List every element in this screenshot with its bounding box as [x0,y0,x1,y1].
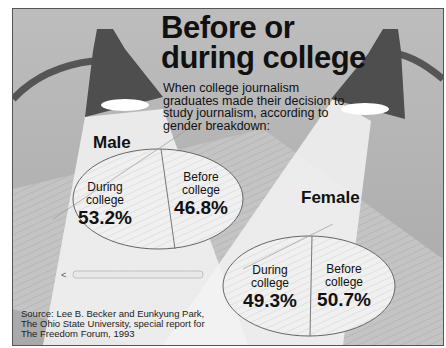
title-line-2: during college [161,40,366,75]
slice-caption: college [235,277,305,290]
chart-subtitle: When college journalism graduates made t… [163,82,353,132]
slice-value: 50.7% [309,289,379,311]
slice-caption: college [65,194,145,207]
svg-text:<: < [61,270,66,280]
slice-value: 53.2% [65,207,145,229]
slice-caption: college [309,276,379,289]
female-label: Female [301,188,360,208]
infographic-frame: < Before or during college When college … [12,8,444,346]
male-label: Male [93,133,131,153]
source-note: Source: Lee B. Becker and Eunkyung Park,… [21,309,211,339]
male-during-slice: During college 53.2% [65,181,145,229]
chart-title: Before or during college [161,13,366,73]
slice-caption: college [161,184,241,197]
slice-value: 46.8% [161,197,241,219]
female-before-slice: Before college 50.7% [309,263,379,311]
male-before-slice: Before college 46.8% [161,171,241,219]
slice-value: 49.3% [235,290,305,312]
female-during-slice: During college 49.3% [235,264,305,312]
